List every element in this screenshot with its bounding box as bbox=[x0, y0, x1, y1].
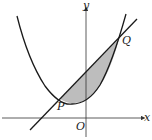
point-p-label: P bbox=[57, 101, 64, 112]
origin-label: O bbox=[76, 121, 85, 132]
line-pq bbox=[30, 19, 137, 130]
x-axis-label: x bbox=[144, 112, 150, 123]
shaded-region bbox=[60, 39, 119, 103]
parabola-line-diagram: y x O P Q bbox=[0, 0, 152, 140]
y-axis-label: y bbox=[83, 0, 89, 11]
point-q-label: Q bbox=[122, 35, 131, 46]
diagram-canvas bbox=[0, 0, 152, 140]
